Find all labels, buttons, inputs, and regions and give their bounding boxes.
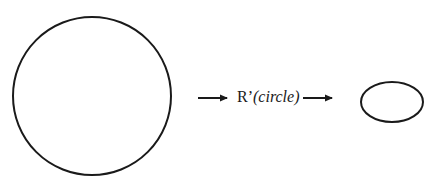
function-argument: (circle) bbox=[253, 88, 299, 105]
function-name: R’ bbox=[237, 88, 253, 105]
transform-label: R’(circle) bbox=[237, 88, 299, 106]
result-ellipse bbox=[361, 82, 423, 122]
diagram-canvas bbox=[0, 0, 435, 181]
source-circle bbox=[13, 17, 171, 175]
